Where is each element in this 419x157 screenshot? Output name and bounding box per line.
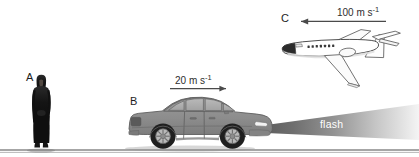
car-speed-arrow <box>170 86 226 92</box>
front-wheel <box>220 124 245 149</box>
flash-label: flash <box>320 119 343 130</box>
plane-speed-value: 100 m s <box>337 7 373 18</box>
object-label-a: A <box>26 72 33 83</box>
car-figure <box>125 97 272 151</box>
plane-speed-arrow <box>301 18 386 24</box>
rear-wheel <box>150 124 175 149</box>
plane-speed-exponent: -1 <box>373 5 380 14</box>
car-speed-exponent: -1 <box>205 73 212 82</box>
plane-speed-label: 100 m s-1 <box>337 8 379 18</box>
physics-diagram: A B C 20 m s-1 100 m s-1 flash <box>0 0 419 157</box>
object-label-b: B <box>130 96 137 107</box>
car-speed-value: 20 m s <box>175 75 205 86</box>
car-speed-label: 20 m s-1 <box>175 76 212 86</box>
aeroplane-figure <box>282 30 400 88</box>
person-figure <box>27 75 55 153</box>
object-label-c: C <box>281 13 289 24</box>
